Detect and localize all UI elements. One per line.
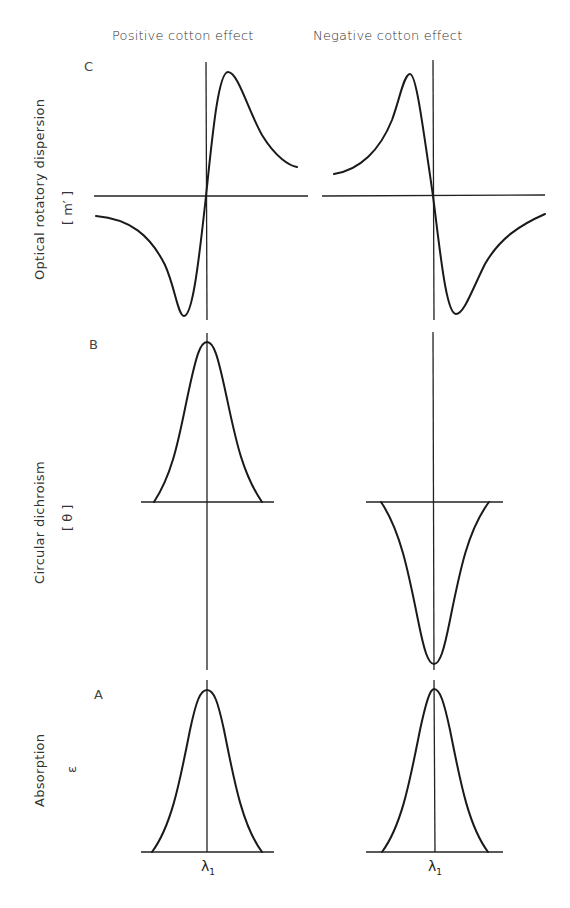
ord-positive-panel	[94, 62, 308, 320]
ord-negative-curve	[334, 74, 545, 314]
cotton-effect-figure	[0, 0, 570, 908]
absorption-negative-panel	[366, 680, 503, 852]
ord-negative-y-axis	[433, 60, 434, 320]
cd-positive-panel	[141, 333, 274, 670]
cd-negative-y-axis	[433, 332, 434, 670]
absorption-negative-y-axis	[434, 680, 435, 852]
cd-negative-band	[381, 502, 489, 664]
absorption-positive-panel	[141, 680, 274, 852]
ord-negative-panel	[322, 60, 545, 320]
cd-negative-panel	[366, 332, 503, 670]
ord-positive-curve	[96, 72, 297, 316]
cd-positive-band	[154, 342, 262, 502]
